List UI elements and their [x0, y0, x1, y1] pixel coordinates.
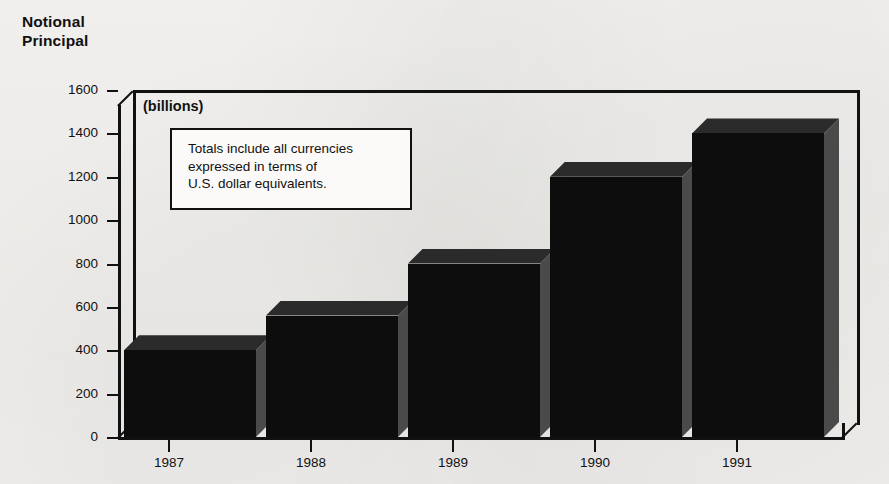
units-label: (billions) [143, 98, 203, 114]
y-axis-tick-label: 600 [42, 300, 98, 313]
bar-top-face [266, 301, 413, 316]
x-axis-tick-label: 1990 [560, 455, 630, 470]
bar-1990 [550, 162, 697, 437]
frame-corner-bevel-top-left [117, 90, 134, 107]
annotation-line-1: Totals include all currencies [188, 140, 397, 158]
bar-1987 [124, 335, 271, 437]
chart-plot-area: 02004006008001000120014001600 1987198819… [0, 0, 889, 484]
y-axis-tick-label: 800 [42, 257, 98, 270]
bar-top-face [408, 249, 555, 264]
axis-left-vertical [118, 105, 121, 440]
y-axis-tick-mark [107, 307, 118, 309]
x-axis-tick-label: 1987 [134, 455, 204, 470]
bar-front-face [124, 350, 256, 437]
frame-right-back-vertical [857, 90, 860, 425]
bar-front-face [550, 177, 682, 437]
bar-top-face [692, 118, 839, 133]
y-axis-tick-mark [107, 220, 118, 222]
y-axis-tick-label: 1000 [42, 213, 98, 226]
frame-top-back-edge [133, 90, 860, 93]
bar-front-face [266, 316, 398, 437]
x-axis-tick-label: 1989 [418, 455, 488, 470]
y-axis-tick-label: 0 [42, 430, 98, 443]
annotation-line-2: expressed in terms of [188, 158, 397, 176]
x-axis-tick-label: 1991 [702, 455, 772, 470]
annotation-box: Totals include all currencies expressed … [170, 128, 412, 210]
x-axis-tick-mark [594, 440, 596, 452]
y-axis-tick-label: 1200 [42, 170, 98, 183]
y-axis-tick-mark [107, 264, 118, 266]
bar-top-face [124, 335, 271, 350]
bar-front-face [408, 264, 540, 438]
bar-1988 [266, 301, 413, 437]
y-axis-tick-mark [107, 177, 118, 179]
bar-1991 [692, 118, 839, 437]
annotation-line-3: U.S. dollar equivalents. [188, 175, 397, 193]
bar-front-face [692, 133, 824, 437]
y-axis-tick-label: 1400 [42, 126, 98, 139]
y-axis-tick-label: 200 [42, 387, 98, 400]
y-axis-tick-mark [107, 394, 118, 396]
x-axis-tick-mark [452, 440, 454, 452]
bar-side-face [824, 118, 839, 437]
x-axis-tick-mark [168, 440, 170, 452]
x-axis-tick-mark [310, 440, 312, 452]
y-axis-tick-label: 1600 [42, 83, 98, 96]
y-axis-tick-mark [107, 350, 118, 352]
bar-1989 [408, 249, 555, 438]
x-axis-tick-label: 1988 [276, 455, 346, 470]
y-axis-tick-label: 400 [42, 343, 98, 356]
x-axis-tick-mark [736, 440, 738, 452]
bar-top-face [550, 162, 697, 177]
y-axis-tick-mark [107, 133, 118, 135]
y-axis-tick-mark [107, 90, 118, 92]
